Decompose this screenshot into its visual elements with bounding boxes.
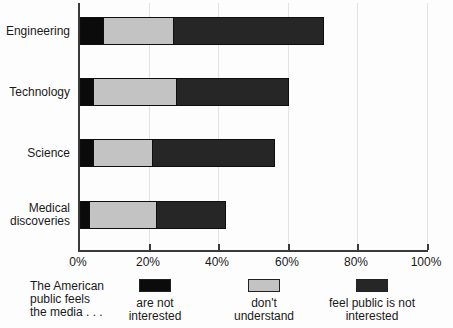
gridline-100 [427, 3, 428, 250]
legend-item-feel-public-is-not-interested: feel public is not interested [314, 278, 430, 323]
category-label-science: Science [0, 147, 70, 160]
bar-segment-feel-public-is-not-interested [152, 139, 275, 167]
x-tick-mark-100 [427, 244, 429, 250]
category-label-engineering: Engineering [0, 25, 70, 38]
stacked-bar-chart-figure: EngineeringTechnologyScienceMedical disc… [0, 0, 453, 328]
bar-segment-are-not-interested [80, 139, 94, 167]
legend-swatch-feel-public-is-not-interested [356, 279, 388, 292]
bar-segment-are-not-interested [80, 78, 94, 106]
legend-intro-line-3: the media . . . [30, 306, 104, 319]
x-tick-label-0: 0% [53, 255, 103, 269]
x-tick-label-20: 20% [123, 255, 173, 269]
category-label-medical-discoveries: Medical discoveries [0, 202, 70, 228]
bar-row-medical-discoveries [80, 201, 226, 229]
legend-intro: The American public feels the media . . … [30, 280, 104, 319]
legend-label-are-not-interested: are not interested [123, 297, 187, 323]
category-label-technology: Technology [0, 86, 70, 99]
bar-row-technology [80, 78, 289, 106]
legend: The American public feels the media . . … [0, 278, 453, 328]
x-tick-mark-40 [218, 244, 220, 250]
legend-label-feel-public-is-not-interested: feel public is not interested [314, 297, 430, 323]
plot-area [78, 3, 428, 252]
x-tick-label-40: 40% [192, 255, 242, 269]
bar-segment-don-t-understand [103, 17, 174, 45]
x-tick-label-80: 80% [331, 255, 381, 269]
legend-item-don-t-understand: don't understand [223, 278, 305, 323]
x-tick-mark-20 [149, 244, 151, 250]
bar-segment-feel-public-is-not-interested [176, 78, 289, 106]
x-tick-mark-60 [288, 244, 290, 250]
bar-segment-are-not-interested [80, 17, 104, 45]
x-tick-label-60: 60% [262, 255, 312, 269]
legend-item-are-not-interested: are not interested [123, 278, 187, 323]
bar-segment-don-t-understand [93, 139, 153, 167]
legend-swatch-don-t-understand [248, 279, 280, 292]
bar-segment-feel-public-is-not-interested [173, 17, 324, 45]
x-tick-mark-80 [357, 244, 359, 250]
gridline-80 [357, 3, 358, 250]
bar-row-science [80, 139, 275, 167]
bar-segment-don-t-understand [93, 78, 177, 106]
legend-label-don-t-understand: don't understand [223, 297, 305, 323]
bar-segment-feel-public-is-not-interested [156, 201, 226, 229]
x-tick-label-100: 100% [401, 255, 451, 269]
bar-segment-don-t-understand [89, 201, 157, 229]
legend-swatch-are-not-interested [139, 279, 171, 292]
bar-row-engineering [80, 17, 324, 45]
